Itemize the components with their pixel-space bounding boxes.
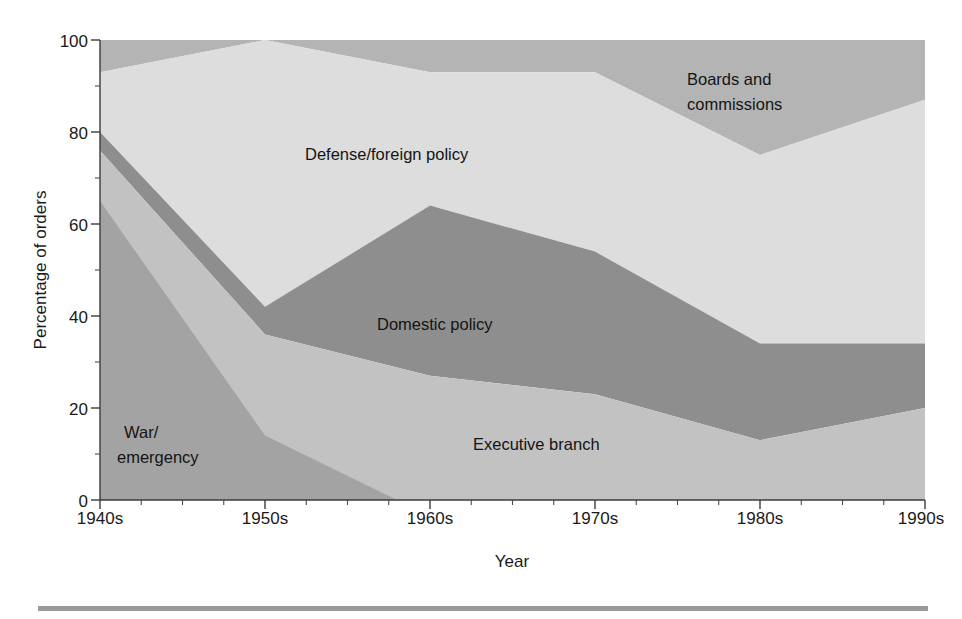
label-boards-line2: commissions xyxy=(687,95,782,113)
y-axis-title: Percentage of orders xyxy=(31,191,50,350)
x-tick-label-1980s: 1980s xyxy=(737,509,783,528)
x-axis-title: Year xyxy=(495,552,530,571)
y-tick-label-60: 60 xyxy=(69,216,88,235)
y-tick-label-40: 40 xyxy=(69,308,88,327)
figure-container: 100 80 60 40 20 0 1940s 1950s 1960s 1970… xyxy=(0,0,962,619)
label-boards-line1: Boards and xyxy=(687,70,771,88)
x-axis-ticks xyxy=(100,500,925,509)
bottom-rule xyxy=(38,606,928,611)
y-tick-label-100: 100 xyxy=(60,32,88,51)
x-tick-label-1950s: 1950s xyxy=(242,509,288,528)
x-tick-label-1960s: 1960s xyxy=(407,509,453,528)
label-executive-branch: Executive branch xyxy=(473,435,600,453)
x-tick-label-1970s: 1970s xyxy=(572,509,618,528)
label-defense-foreign-policy: Defense/foreign policy xyxy=(305,145,469,163)
label-domestic-policy: Domestic policy xyxy=(377,315,493,333)
x-tick-label-1940s: 1940s xyxy=(77,509,123,528)
plot-areas xyxy=(100,40,925,500)
stacked-area-chart: 100 80 60 40 20 0 1940s 1950s 1960s 1970… xyxy=(0,0,962,619)
label-war-emergency-line2: emergency xyxy=(117,448,199,466)
y-tick-label-20: 20 xyxy=(69,400,88,419)
y-tick-label-80: 80 xyxy=(69,124,88,143)
y-axis-ticks xyxy=(91,40,100,500)
x-tick-label-1990s: 1990s xyxy=(898,509,944,528)
label-war-emergency-line1: War/ xyxy=(124,423,159,441)
